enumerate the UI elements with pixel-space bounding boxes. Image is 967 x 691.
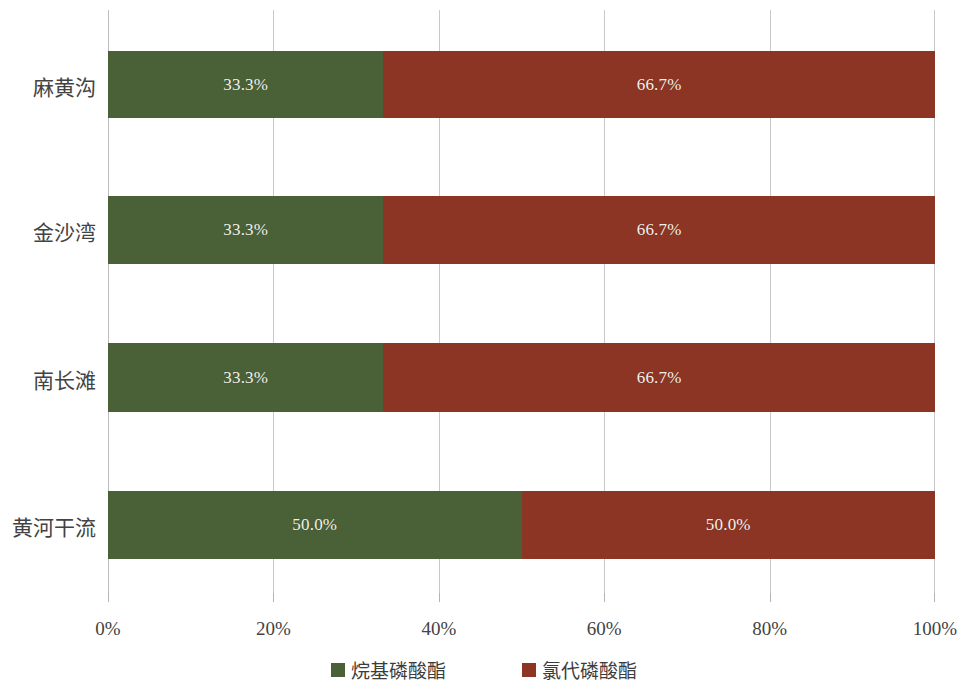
bar-row[interactable]: 33.3%66.7% [108,196,935,264]
x-axis-label: 100% [913,618,957,640]
x-tickmark-80pct [770,593,771,602]
bar-row[interactable]: 33.3%66.7% [108,343,935,412]
y-axis-category-label: 金沙湾 [0,216,96,246]
bar-value-label: 66.7% [637,220,682,240]
x-tickmark-60pct [604,593,605,602]
legend-label: 烷基磷酸酯 [351,656,446,683]
x-axis-label: 60% [587,618,622,640]
bar-segment[interactable]: 33.3% [108,51,383,118]
bar-value-label: 33.3% [223,75,268,95]
bar-row[interactable]: 50.0%50.0% [108,491,935,559]
bar-segment[interactable]: 33.3% [108,343,383,412]
x-tickmark-0pct [108,593,109,602]
bar-segment[interactable]: 66.7% [383,343,935,412]
x-tickmark-40pct [439,593,440,602]
bar-segment[interactable]: 66.7% [383,51,935,118]
chart-legend: 烷基磷酸酯氯代磷酸酯 [0,656,967,683]
bar-value-label: 66.7% [637,75,682,95]
y-axis-category-label: 麻黄沟 [0,71,96,101]
legend-swatch-icon [522,663,536,677]
bar-row[interactable]: 33.3%66.7% [108,51,935,118]
bar-value-label: 50.0% [292,515,337,535]
x-tickmark-100pct [934,593,935,602]
bar-segment[interactable]: 33.3% [108,196,383,264]
y-axis-category-label: 黄河干流 [0,511,96,541]
x-tickmark-20pct [273,593,274,602]
bar-value-label: 66.7% [637,368,682,388]
x-axis-label: 20% [256,618,291,640]
bar-value-label: 33.3% [223,220,268,240]
x-axis-label: 40% [421,618,456,640]
legend-item[interactable]: 氯代磷酸酯 [522,656,637,683]
bar-value-label: 33.3% [223,368,268,388]
y-axis-category-label: 南长滩 [0,364,96,394]
stacked-bar-chart: 0%20%40%60%80%100%33.3%66.7%麻黄沟33.3%66.7… [0,0,967,691]
x-axis-label: 80% [752,618,787,640]
bar-segment[interactable]: 50.0% [108,491,522,559]
bar-value-label: 50.0% [706,515,751,535]
legend-label: 氯代磷酸酯 [542,656,637,683]
bar-segment[interactable]: 50.0% [522,491,936,559]
bar-segment[interactable]: 66.7% [383,196,935,264]
legend-swatch-icon [331,663,345,677]
plot-area: 0%20%40%60%80%100%33.3%66.7%麻黄沟33.3%66.7… [108,10,935,593]
x-axis-label: 0% [95,618,120,640]
legend-item[interactable]: 烷基磷酸酯 [331,656,446,683]
